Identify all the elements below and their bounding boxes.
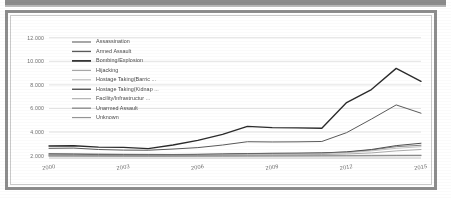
legend-item[interactable]: Hostage Taking(Kidnap ...	[72, 86, 159, 92]
y-tick-label: 10.000	[27, 58, 44, 64]
legend-item[interactable]: Hijacking	[72, 67, 118, 73]
legend-item[interactable]: Bombing/Explosion	[72, 57, 143, 63]
top-gray-bar-highlight	[5, 5, 446, 7]
figure-inner-border: 2.0004.0006.0008.00010.00012.000 2000200…	[10, 15, 432, 185]
x-tick-label: 2015	[414, 163, 428, 171]
y-tick-label: 8.000	[30, 82, 44, 88]
legend-label: Facility/Infrastructur ...	[96, 95, 150, 101]
legend-item[interactable]: Unarmed Assault	[72, 105, 138, 111]
x-tick-label: 2003	[116, 163, 130, 171]
scanned-page: 2.0004.0006.0008.00010.00012.000 2000200…	[0, 0, 451, 198]
line-chart[interactable]: 2.0004.0006.0008.00010.00012.000 2000200…	[11, 16, 435, 188]
legend-item[interactable]: Hostage Taking(Barric ...	[72, 76, 156, 82]
series-line	[49, 105, 421, 150]
x-axis-tick-labels: 200020032006200920122015	[42, 163, 428, 171]
figure-frame: 2.0004.0006.0008.00010.00012.000 2000200…	[5, 10, 437, 190]
y-tick-label: 4.000	[30, 129, 44, 135]
legend-label: Armed Assault	[96, 48, 132, 54]
legend-item[interactable]: Armed Assault	[72, 48, 132, 54]
x-tick-label: 2006	[191, 163, 205, 171]
chart-legend[interactable]: AssassinationArmed AssaultBombing/Explos…	[72, 38, 159, 120]
x-tick-label: 2012	[339, 163, 353, 171]
x-tick-label: 2000	[42, 163, 56, 171]
legend-label: Hostage Taking(Barric ...	[96, 76, 156, 82]
legend-label: Assassination	[96, 38, 130, 44]
y-axis-tick-labels: 2.0004.0006.0008.00010.00012.000	[27, 35, 44, 159]
y-tick-label: 12.000	[27, 35, 44, 41]
legend-item[interactable]: Assassination	[72, 38, 130, 44]
legend-label: Bombing/Explosion	[96, 57, 143, 63]
legend-label: Hostage Taking(Kidnap ...	[96, 86, 159, 92]
legend-label: Unarmed Assault	[96, 105, 138, 111]
y-tick-label: 6.000	[30, 105, 44, 111]
legend-label: Hijacking	[96, 67, 118, 73]
y-tick-label: 2.000	[30, 153, 44, 159]
chart-plot-area[interactable]: 2.0004.0006.0008.00010.00012.000 2000200…	[11, 16, 431, 184]
legend-item[interactable]: Facility/Infrastructur ...	[72, 95, 150, 101]
x-tick-label: 2009	[265, 163, 279, 171]
legend-label: Unknown	[96, 114, 119, 120]
legend-item[interactable]: Unknown	[72, 114, 119, 120]
